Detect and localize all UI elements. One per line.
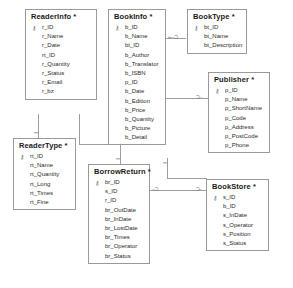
field-list-borrowreturn: ⚷br_ID s_ID r_ID br_OutDate br_InDate br… [89,178,149,263]
field-list-bookstore: ⚷s_ID b_ID s_InDate s_Operator s_Positio… [207,193,268,250]
field-label: r_ID [42,24,53,30]
field-label: bt_ID [125,42,139,48]
field-readerinfo-0[interactable]: ⚷r_ID [26,23,96,32]
entity-bookinfo[interactable]: BookInfo * ⚷b_ID b_Name bt_ID b_Author b… [108,9,166,145]
field-publisher-6[interactable]: p_Phone [209,141,269,150]
field-publisher-4[interactable]: p_Address [209,123,269,132]
key-icon: ⚷ [194,25,200,31]
field-bookinfo-0[interactable]: ⚷b_ID [109,23,165,32]
field-bookinfo-9[interactable]: b_Price [109,106,165,115]
field-readerinfo-4[interactable]: r_Quantity [26,60,96,69]
field-bookstore-1[interactable]: b_ID [207,202,268,211]
field-bookinfo-10[interactable]: b_Quantity [109,115,165,124]
field-borrowreturn-6[interactable]: br_Times [89,233,149,242]
field-booktype-2[interactable]: bt_Description [188,41,246,50]
field-borrowreturn-0[interactable]: ⚷br_ID [89,178,149,187]
field-label: p_ShortName [225,105,262,111]
field-borrowreturn-3[interactable]: br_OutDate [89,206,149,215]
field-label: b_ID [223,203,236,209]
field-readerinfo-6[interactable]: r_Email [26,78,96,87]
entity-title-borrowreturn: BorrowReturn * [89,165,149,178]
field-readertype-2[interactable]: rt_Quantity [14,170,75,179]
field-booktype-0[interactable]: ⚷bt_ID [188,23,246,32]
field-list-readerinfo: ⚷r_ID r_Name r_Date rt_ID r_Quantity r_S… [26,23,96,99]
field-label: p_ID [225,87,238,93]
entity-booktype[interactable]: BookType * ⚷bt_ID bt_Name bt_Description [187,9,247,54]
field-label: rt_ID [42,52,55,58]
field-label: br_InDate [105,216,131,222]
field-readerinfo-7[interactable]: r_bz [26,87,96,96]
field-label: p_PostCode [225,133,258,139]
crowfoot-bookinfo-bottom: ‖ [162,162,167,164]
field-bookinfo-12[interactable]: b_Detail [109,133,165,142]
field-label: p_Phone [225,142,249,148]
field-readertype-4[interactable]: rt_Times [14,189,75,198]
entity-readertype[interactable]: ReaderType * ⚷rt_ID rt_Name rt_Quantity … [13,138,76,210]
field-label: r_Status [42,70,64,76]
field-borrowreturn-2[interactable]: r_ID [89,196,149,205]
connector-readerinfo-borrowreturn-v1 [79,114,80,144]
field-label: r_Quantity [42,61,70,67]
field-readertype-3[interactable]: rt_Long [14,180,75,189]
field-label: b_ID [125,24,138,30]
field-bookinfo-2[interactable]: bt_ID [109,41,165,50]
entity-borrowreturn[interactable]: BorrowReturn * ⚷br_ID s_ID r_ID br_OutDa… [88,164,150,264]
field-bookinfo-4[interactable]: b_Translator [109,60,165,69]
field-booktype-1[interactable]: bt_Name [188,32,246,41]
field-label: rt_Long [30,181,50,187]
field-bookinfo-5[interactable]: b_ISBN [109,69,165,78]
entity-title-bookinfo: BookInfo * [109,10,165,23]
field-readerinfo-2[interactable]: r_Date [26,41,96,50]
field-bookinfo-7[interactable]: b_Date [109,87,165,96]
field-label: b_Quantity [125,116,154,122]
key-icon: ⚷ [20,154,26,160]
field-borrowreturn-5[interactable]: br_LostDate [89,224,149,233]
field-readertype-5[interactable]: rt_Fine [14,198,75,207]
field-readerinfo-5[interactable]: r_Status [26,69,96,78]
entity-readerinfo[interactable]: ReaderInfo * ⚷r_ID r_Name r_Date rt_ID r… [25,9,97,100]
key-icon: ⚷ [213,195,219,201]
er-diagram-canvas: ⇐┈Ɔ Ɔ┈ ‖ ‖ ‖ ┈Ɔ Ɔ┈ ReaderInfo * ⚷r_ID r_… [0,0,293,288]
field-bookinfo-3[interactable]: b_Author [109,51,165,60]
field-readerinfo-3[interactable]: rt_ID [26,51,96,60]
field-publisher-0[interactable]: ⚷p_ID [209,86,269,95]
field-bookstore-4[interactable]: s_Position [207,230,268,239]
crowfoot-publisher-bookinfo: Ɔ┈ [196,95,202,100]
field-bookinfo-8[interactable]: b_Edition [109,97,165,106]
field-borrowreturn-4[interactable]: br_InDate [89,215,149,224]
key-icon: ⚷ [32,25,38,31]
field-label: b_Detail [125,134,147,140]
field-label: br_Times [105,234,130,240]
field-readertype-1[interactable]: rt_Name [14,161,75,170]
field-label: rt_Name [30,162,53,168]
field-bookstore-5[interactable]: s_Status [207,239,268,248]
entity-publisher[interactable]: Publisher * ⚷p_ID p_Name p_ShortName p_C… [208,72,270,153]
key-icon: ⚷ [95,180,101,186]
field-bookstore-0[interactable]: ⚷s_ID [207,193,268,202]
field-bookinfo-6[interactable]: p_ID [109,78,165,87]
field-label: p_Name [225,96,248,102]
field-bookinfo-1[interactable]: b_Name [109,32,165,41]
field-label: b_Edition [125,98,150,104]
field-readertype-0[interactable]: ⚷rt_ID [14,152,75,161]
field-publisher-3[interactable]: p_Code [209,114,269,123]
connector-readerinfo-readertype-v [38,114,39,138]
field-publisher-5[interactable]: p_PostCode [209,132,269,141]
field-readerinfo-1[interactable]: r_Name [26,32,96,41]
field-label: b_Price [125,107,145,113]
field-label: bt_Name [204,33,228,39]
crowfoot-readertype: ‖ [33,132,38,134]
connector-readerinfo-borrowreturn-v2 [120,144,121,164]
field-label: rt_ID [30,153,43,159]
field-list-readertype: ⚷rt_ID rt_Name rt_Quantity rt_Long rt_Ti… [14,152,75,209]
field-bookstore-3[interactable]: s_Operator [207,221,268,230]
field-publisher-2[interactable]: p_ShortName [209,104,269,113]
field-bookinfo-11[interactable]: b_Picture [109,124,165,133]
field-publisher-1[interactable]: p_Name [209,95,269,104]
entity-bookstore[interactable]: BookStore * ⚷s_ID b_ID s_InDate s_Operat… [206,179,269,251]
field-borrowreturn-1[interactable]: s_ID [89,187,149,196]
field-label: b_ISBN [125,70,146,76]
field-bookstore-2[interactable]: s_InDate [207,211,268,220]
field-borrowreturn-7[interactable]: br_Operator [89,242,149,251]
field-borrowreturn-8[interactable]: br_Status [89,252,149,261]
